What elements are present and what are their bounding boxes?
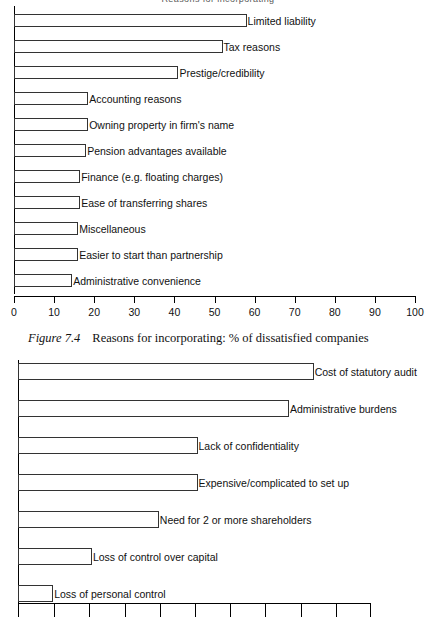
bar (14, 40, 223, 53)
bar (14, 222, 78, 235)
bar (14, 144, 86, 157)
chart-reasons-for-incorporating: Limited liabilityTax reasonsPrestige/cre… (0, 6, 436, 326)
bar (18, 474, 198, 491)
axis-tick (295, 297, 296, 303)
bar (18, 511, 159, 528)
bar-label: Expensive/complicated to set up (199, 478, 350, 489)
axis-tick-label: 60 (249, 306, 261, 318)
axis-tick-label: 20 (88, 306, 100, 318)
axis-tick-label: 70 (289, 306, 301, 318)
axis-tick (125, 604, 126, 617)
axis-tick-label: 50 (209, 306, 221, 318)
bar-label: Limited liability (248, 16, 316, 27)
axis-tick (89, 604, 90, 617)
bar-label: Tax reasons (224, 42, 281, 53)
bar (18, 400, 289, 417)
axis-tick (230, 604, 231, 617)
x-axis-upper: 0102030405060708090100 (0, 296, 436, 326)
axis-tick-label: 10 (48, 306, 60, 318)
bar-label: Administrative convenience (73, 276, 201, 287)
axis-tick-label: 80 (329, 306, 341, 318)
axis-tick (54, 297, 55, 303)
axis-tick (335, 297, 336, 303)
figure-caption-number: Figure 7.4 (28, 331, 80, 345)
cut-off-heading-text: Reasons for incorporating (0, 0, 436, 4)
bar (14, 170, 80, 183)
bar-label: Lack of confidentiality (199, 441, 299, 452)
axis-tick (215, 297, 216, 303)
axis-tick-label: 0 (11, 306, 17, 318)
bar-label: Loss of personal control (54, 589, 165, 600)
bar (18, 437, 198, 454)
figure-caption-text: Reasons for incorporating: % of dissatis… (92, 331, 368, 345)
axis-tick (14, 297, 15, 303)
axis-tick-label: 40 (169, 306, 181, 318)
bar-label: Cost of statutory audit (315, 367, 417, 378)
bar (18, 585, 53, 602)
x-axis-lower (0, 603, 436, 615)
axis-tick (415, 297, 416, 303)
axis-tick (375, 297, 376, 303)
axis-tick (301, 604, 302, 617)
bar-label: Administrative burdens (290, 404, 397, 415)
cut-off-heading: Reasons for incorporating (0, 0, 436, 4)
bar (14, 274, 72, 287)
bar-label: Finance (e.g. floating charges) (81, 172, 223, 183)
bar (14, 118, 88, 131)
axis-tick-label: 100 (406, 306, 424, 318)
axis-tick (255, 297, 256, 303)
axis-tick (174, 297, 175, 303)
axis-tick-label: 30 (128, 306, 140, 318)
bar (14, 196, 80, 209)
bar (14, 14, 247, 27)
bar (18, 548, 92, 565)
axis-tick (54, 604, 55, 617)
axis-tick-label: 90 (369, 306, 381, 318)
chart-reasons-against-incorporating: Cost of statutory auditAdministrative bu… (0, 360, 436, 614)
figure-caption: Figure 7.4Reasons for incorporating: % o… (28, 331, 369, 346)
bar-label: Accounting reasons (89, 94, 181, 105)
bar-label: Easier to start than partnership (79, 250, 223, 261)
bar-label: Loss of control over capital (93, 552, 218, 563)
axis-tick (160, 604, 161, 617)
bar-label: Need for 2 or more shareholders (160, 515, 312, 526)
bar (18, 363, 314, 380)
axis-tick (134, 297, 135, 303)
bar-label: Ease of transferring shares (81, 198, 207, 209)
axis-tick (195, 604, 196, 617)
bar-label: Prestige/credibility (179, 68, 264, 79)
axis-grid-box (18, 603, 371, 617)
axis-tick (336, 604, 337, 617)
axis-tick (265, 604, 266, 617)
plot-area-upper: Limited liabilityTax reasonsPrestige/cre… (0, 6, 436, 296)
plot-area-lower: Cost of statutory auditAdministrative bu… (0, 360, 436, 603)
bar (14, 92, 88, 105)
bar (14, 248, 78, 261)
axis-tick (94, 297, 95, 303)
bar-label: Pension advantages available (87, 146, 227, 157)
bar-label: Owning property in firm's name (89, 120, 234, 131)
bar-label: Miscellaneous (79, 224, 146, 235)
bar (14, 66, 178, 79)
